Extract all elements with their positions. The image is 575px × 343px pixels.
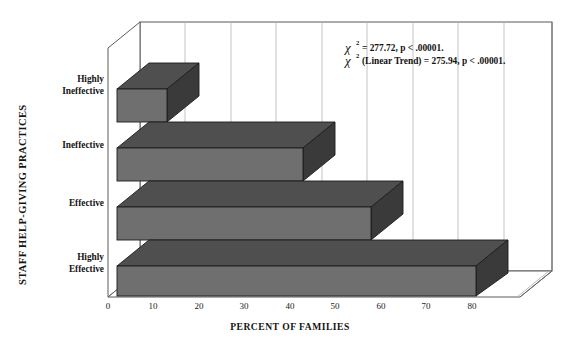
chart-container: 0 10 20 30 40 50 60 70 80 PERCENT OF FAM… [0,0,575,343]
y-axis-category-labels: Highly Ineffective Ineffective Effective… [62,74,104,274]
chi-symbol-2: χ [343,53,351,68]
x-tick-label-70: 70 [422,301,432,311]
x-tick-label-30: 30 [240,301,250,311]
bar-ineffective-body[interactable] [117,122,335,181]
category-label-ineffective: Ineffective [62,140,104,150]
x-tick-label-50: 50 [331,301,341,311]
bar-highly-effective-body[interactable] [117,240,508,296]
x-tick-label-40: 40 [286,301,296,311]
bar-effective-body[interactable] [117,181,403,240]
category-label-highly-ineffective-line1: Highly [77,74,104,84]
x-tick-label-0: 0 [106,301,111,311]
x-tick-label-80: 80 [468,301,478,311]
x-tick-label-20: 20 [195,301,205,311]
chi-square-overall-text: = 277.72, p < .00001. [362,43,444,53]
y-axis-title: STAFF HELP-GIVING PRACTICES [17,104,28,285]
x-tick-label-10: 10 [149,301,159,311]
x-axis-title: PERCENT OF FAMILIES [230,321,350,332]
category-label-effective: Effective [69,198,104,208]
x-axis-tick-labels: 0 10 20 30 40 50 60 70 80 [106,301,477,311]
chi-square-linear-trend-text: (Linear Trend) = 275.94, p < .00001. [362,56,505,67]
bar-chart-figure: 0 10 20 30 40 50 60 70 80 PERCENT OF FAM… [0,0,575,343]
category-label-highly-effective-line2: Effective [69,264,104,274]
category-label-highly-effective-line1: Highly [77,252,104,262]
category-label-highly-ineffective-line2: Ineffective [62,86,104,96]
x-tick-label-60: 60 [377,301,387,311]
